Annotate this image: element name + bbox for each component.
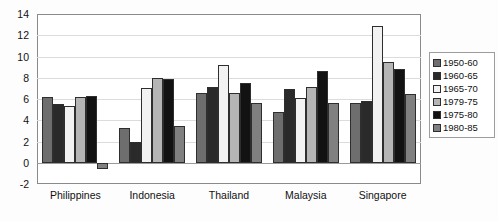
bar[interactable] xyxy=(273,112,284,163)
bar-group-bars xyxy=(344,14,421,184)
bar[interactable] xyxy=(163,79,174,163)
bar-slot xyxy=(361,14,372,184)
y-axis-tick: 10 xyxy=(0,52,29,63)
legend-label: 1975-80 xyxy=(443,110,478,120)
legend-swatch-icon xyxy=(433,111,441,119)
bar[interactable] xyxy=(97,163,108,169)
x-axis-tick: Indonesia xyxy=(114,189,191,201)
bar-slot xyxy=(64,14,75,184)
bar-slot xyxy=(284,14,295,184)
bar[interactable] xyxy=(141,88,152,162)
bar-slot xyxy=(119,14,130,184)
legend: 1950-601960-651965-701979-751975-801980-… xyxy=(429,52,495,138)
bar-slot xyxy=(240,14,251,184)
legend-swatch-icon xyxy=(433,59,441,67)
bar-group xyxy=(344,14,421,184)
bar[interactable] xyxy=(350,103,361,163)
legend-label: 1965-70 xyxy=(443,84,478,94)
legend-item[interactable]: 1965-70 xyxy=(433,82,492,95)
bar-chart: 14121086420-2 PhilippinesIndonesiaThaila… xyxy=(0,0,498,222)
legend-item[interactable]: 1979-75 xyxy=(433,95,492,108)
bar[interactable] xyxy=(361,101,372,163)
bar[interactable] xyxy=(196,93,207,163)
bar-slot xyxy=(383,14,394,184)
bar[interactable] xyxy=(229,93,240,163)
bar[interactable] xyxy=(86,96,97,163)
bar[interactable] xyxy=(306,87,317,162)
bar-slot xyxy=(273,14,284,184)
legend-item[interactable]: 1960-65 xyxy=(433,69,492,82)
bar[interactable] xyxy=(394,69,405,163)
y-axis-tick: 0 xyxy=(0,158,29,169)
bar-slot xyxy=(295,14,306,184)
legend-label: 1960-65 xyxy=(443,71,478,81)
bar[interactable] xyxy=(207,87,218,162)
bar-group-bars xyxy=(191,14,268,184)
bar-group xyxy=(37,14,114,184)
legend-item[interactable]: 1980-85 xyxy=(433,121,492,134)
bar[interactable] xyxy=(75,97,86,163)
bar[interactable] xyxy=(119,128,130,163)
bar-group-bars xyxy=(267,14,344,184)
bar-slot xyxy=(394,14,405,184)
bar-group-bars xyxy=(114,14,191,184)
bar-slot xyxy=(196,14,207,184)
bar-slot xyxy=(141,14,152,184)
plot-area xyxy=(37,14,421,184)
bar-groups xyxy=(37,14,421,184)
bar[interactable] xyxy=(42,97,53,163)
bar[interactable] xyxy=(317,71,328,162)
y-axis-tick: 6 xyxy=(0,94,29,105)
legend-swatch-icon xyxy=(433,85,441,93)
bar-slot xyxy=(328,14,339,184)
bar-slot xyxy=(163,14,174,184)
y-axis-tick: 12 xyxy=(0,30,29,41)
bar[interactable] xyxy=(64,106,75,162)
bar-slot xyxy=(229,14,240,184)
bar[interactable] xyxy=(152,78,163,163)
bar[interactable] xyxy=(383,62,394,163)
legend-label: 1980-85 xyxy=(443,123,478,133)
y-axis-tick: 14 xyxy=(0,9,29,20)
bar-group xyxy=(191,14,268,184)
x-axis-tick: Singapore xyxy=(344,189,421,201)
x-axis-labels: PhilippinesIndonesiaThailandMalaysiaSing… xyxy=(37,189,421,201)
bar[interactable] xyxy=(130,142,141,163)
legend-swatch-icon xyxy=(433,124,441,132)
bar-slot xyxy=(251,14,262,184)
x-axis-tick: Thailand xyxy=(191,189,268,201)
bar-slot xyxy=(174,14,185,184)
y-axis-tick: -2 xyxy=(0,179,29,190)
bar[interactable] xyxy=(328,103,339,163)
y-axis-tick: 4 xyxy=(0,115,29,126)
legend-label: 1950-60 xyxy=(443,58,478,68)
bar-slot xyxy=(75,14,86,184)
bar[interactable] xyxy=(218,65,229,163)
bar-slot xyxy=(42,14,53,184)
legend-swatch-icon xyxy=(433,98,441,106)
bar[interactable] xyxy=(251,103,262,163)
x-axis-tick: Philippines xyxy=(37,189,114,201)
bar[interactable] xyxy=(295,98,306,163)
y-axis-labels: 14121086420-2 xyxy=(0,0,37,222)
bar[interactable] xyxy=(284,89,295,162)
bar-slot xyxy=(152,14,163,184)
bar-slot xyxy=(372,14,383,184)
bar[interactable] xyxy=(174,126,185,163)
bar-group xyxy=(267,14,344,184)
bar[interactable] xyxy=(372,26,383,163)
bar-slot xyxy=(207,14,218,184)
bar[interactable] xyxy=(53,104,64,162)
bar[interactable] xyxy=(405,94,416,163)
bar-slot xyxy=(306,14,317,184)
legend-item[interactable]: 1975-80 xyxy=(433,108,492,121)
bar[interactable] xyxy=(240,83,251,163)
bar-slot xyxy=(97,14,108,184)
bar-slot xyxy=(218,14,229,184)
bar-group xyxy=(114,14,191,184)
y-axis-tick: 8 xyxy=(0,73,29,84)
bar-slot xyxy=(53,14,64,184)
legend-item[interactable]: 1950-60 xyxy=(433,56,492,69)
legend-label: 1979-75 xyxy=(443,97,478,107)
bar-slot xyxy=(86,14,97,184)
